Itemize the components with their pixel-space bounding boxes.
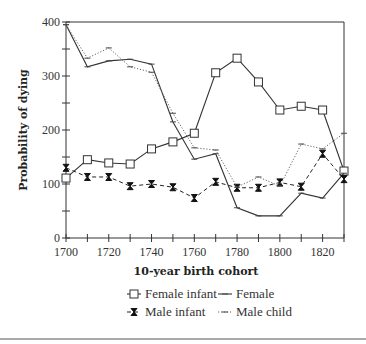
x-tick-label: 1780 (225, 245, 249, 259)
x-tick-label: 1720 (97, 245, 121, 259)
data-point (83, 156, 91, 164)
data-point (234, 184, 240, 191)
data-point (191, 195, 197, 202)
data-point (169, 138, 177, 146)
data-point (233, 54, 241, 62)
legend-label: Female infant (145, 286, 217, 301)
y-axis-title: Probability of dying (17, 69, 30, 191)
data-point (276, 106, 284, 114)
legend-marker-icon (130, 290, 138, 298)
data-point (254, 78, 262, 86)
data-point (63, 164, 69, 171)
y-tick-label: 400 (42, 15, 60, 29)
data-point (126, 160, 134, 168)
data-point (320, 150, 326, 157)
plot-frame (66, 22, 344, 238)
y-tick-label: 100 (42, 177, 60, 191)
data-point (148, 145, 156, 153)
series-female (63, 25, 347, 216)
data-point (105, 159, 113, 167)
legend-item-female: Female (218, 286, 274, 301)
mortality-line-chart: 0100200300400 17001720174017601780180018… (0, 0, 366, 344)
legend-item-male-infant: Male infant (127, 304, 206, 319)
legend-item-female-infant: Female infant (127, 286, 217, 301)
series-female-infant (62, 54, 348, 182)
x-axis-title: 10-year birth cohort (134, 265, 260, 278)
y-axis-ticks: 0100200300400 (42, 15, 70, 245)
legend: Female infantFemaleMale infantMale child (127, 286, 292, 319)
data-point (84, 173, 90, 180)
legend-label: Male infant (145, 304, 206, 319)
legend-item-male-child: Male child (218, 304, 292, 319)
data-point (341, 176, 347, 183)
y-tick-label: 200 (42, 123, 60, 137)
data-point (213, 178, 219, 185)
x-tick-label: 1760 (182, 245, 206, 259)
legend-label: Male child (236, 304, 292, 319)
x-tick-label: 1700 (54, 245, 78, 259)
y-tick-label: 300 (42, 69, 60, 83)
y-tick-label: 0 (54, 231, 60, 245)
data-point (190, 129, 198, 137)
data-point (319, 106, 327, 114)
data-point (297, 102, 305, 110)
series-layer (62, 25, 348, 216)
x-tick-label: 1820 (311, 245, 335, 259)
data-point (62, 174, 70, 182)
data-point (212, 69, 220, 77)
x-tick-label: 1800 (268, 245, 292, 259)
legend-label: Female (236, 286, 274, 301)
x-tick-label: 1740 (140, 245, 164, 259)
